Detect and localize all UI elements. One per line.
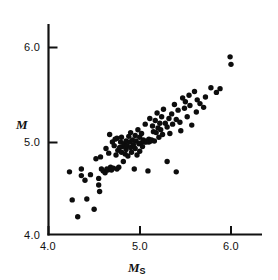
y-tick-label-4: 4.0 (10, 230, 40, 241)
data-point (153, 130, 158, 135)
data-point (121, 159, 126, 164)
y-tick-label-6: 6.0 (10, 42, 40, 53)
data-point (182, 106, 187, 111)
data-point (75, 214, 80, 219)
data-point (145, 168, 150, 173)
x-tick-label-5: 5.0 (125, 241, 155, 252)
data-point (203, 94, 208, 99)
data-point (143, 121, 148, 126)
scatter-plot-figure: 6.0 5.0 4.0 4.0 5.0 6.0 M MS (0, 0, 278, 280)
data-point (183, 99, 188, 104)
data-point (228, 62, 233, 67)
data-point (147, 116, 152, 121)
data-point (96, 182, 101, 187)
data-point (140, 144, 145, 149)
data-point (79, 173, 84, 178)
data-point (97, 189, 102, 194)
data-point (88, 172, 93, 177)
data-point (152, 138, 157, 143)
data-point (139, 131, 144, 136)
data-point (116, 164, 121, 169)
data-point (82, 178, 87, 183)
y-tick-label-5: 5.0 (10, 137, 40, 148)
data-point (160, 132, 165, 137)
data-point (112, 143, 117, 148)
data-point (167, 131, 172, 136)
data-point (96, 176, 101, 181)
y-axis-title: M (16, 118, 28, 131)
x-axis-ticks (49, 226, 232, 235)
data-point (174, 169, 179, 174)
data-point (175, 107, 180, 112)
data-point (189, 122, 194, 127)
data-point (217, 86, 222, 91)
y-axis-title-base: M (16, 117, 28, 132)
data-point (177, 120, 182, 125)
x-axis-title-subscript: S (140, 266, 146, 276)
data-point (169, 111, 174, 116)
data-point-group (67, 54, 234, 219)
x-tick-label-6: 6.0 (216, 241, 246, 252)
data-point (158, 127, 163, 132)
data-point (187, 103, 192, 108)
data-point (178, 128, 183, 133)
data-point (128, 130, 133, 135)
data-point (172, 102, 177, 107)
x-tick-label-4: 4.0 (33, 241, 63, 252)
data-point (154, 110, 159, 115)
data-point (166, 116, 171, 121)
data-point (159, 114, 164, 119)
data-point (186, 92, 191, 97)
data-point (137, 149, 142, 154)
data-point (132, 146, 137, 151)
data-point (113, 152, 118, 157)
data-point (119, 135, 124, 140)
data-point (103, 146, 108, 151)
y-axis-ticks (49, 48, 58, 143)
data-point (79, 166, 84, 171)
data-point (84, 196, 89, 201)
data-point (67, 169, 72, 174)
data-point (164, 159, 169, 164)
data-point (91, 207, 96, 212)
data-point (150, 123, 155, 128)
x-axis-title: MS (128, 261, 146, 276)
data-point (132, 166, 137, 171)
data-point (170, 121, 175, 126)
x-axis-title-base: M (128, 260, 140, 275)
data-point (208, 85, 213, 90)
plot-canvas (0, 0, 278, 280)
data-point (201, 105, 206, 110)
data-point (227, 54, 232, 59)
data-point (153, 118, 158, 123)
data-point (161, 107, 166, 112)
data-point (98, 154, 103, 159)
data-point (194, 109, 199, 114)
data-point (106, 150, 111, 155)
data-point (70, 197, 75, 202)
data-point (185, 114, 190, 119)
data-point (157, 121, 162, 126)
data-point (107, 132, 112, 137)
data-point (192, 89, 197, 94)
data-point (164, 124, 169, 129)
